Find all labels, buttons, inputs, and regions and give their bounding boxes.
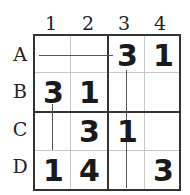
cell-value: 3 [117,38,138,73]
cell-d4[interactable]: 3 [145,151,182,190]
cell-d2[interactable]: 4 [71,151,108,190]
cell-a4[interactable]: 1 [145,36,182,75]
column-label-1: 1 [41,14,61,33]
cell-value: 1 [153,38,174,73]
row-label-c: C [10,120,30,139]
cell-value: 1 [117,114,138,149]
row-label-b: B [10,82,30,101]
cell-c4[interactable] [145,112,182,151]
cell-b3[interactable] [109,73,146,112]
cell-b2[interactable]: 1 [71,73,108,112]
cell-c3[interactable]: 1 [109,112,146,151]
cell-a1[interactable] [35,36,72,75]
row-label-a: A [10,45,30,64]
cell-value: 1 [43,153,64,188]
cell-value: 4 [79,153,100,188]
cell-value: 3 [79,114,100,149]
puzzle-grid: 3 1 3 1 3 1 1 4 3 [33,34,181,191]
cell-b4[interactable] [145,73,182,112]
cell-c1[interactable] [35,112,72,151]
cell-a3[interactable]: 3 [109,36,146,75]
cell-d3[interactable] [109,151,146,190]
cell-a2[interactable] [71,36,108,75]
cell-c2[interactable]: 3 [71,112,108,151]
cell-b1[interactable]: 3 [35,73,72,112]
column-label-2: 2 [78,14,98,33]
cell-d1[interactable]: 1 [35,151,72,190]
row-label-d: D [10,157,30,176]
cell-value: 1 [79,75,100,110]
column-label-3: 3 [114,14,134,33]
column-label-4: 4 [150,14,170,33]
cell-value: 3 [153,153,174,188]
cell-value: 3 [43,75,64,110]
